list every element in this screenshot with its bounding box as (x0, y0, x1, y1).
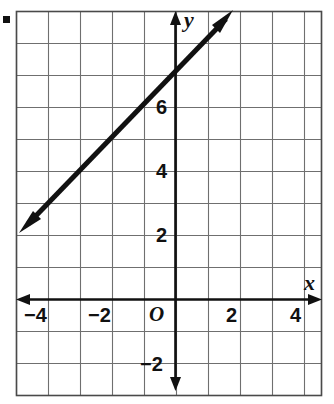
y-tick-label-pos6: 6 (156, 96, 167, 118)
bullet-marker-icon (3, 16, 10, 23)
x-tick-label-neg2: −2 (88, 304, 111, 326)
y-tick-label-neg2: −2 (140, 353, 163, 375)
coordinate-plane-figure: y x O −4 −2 2 4 6 4 2 −2 (0, 0, 334, 404)
x-tick-label-neg4: −4 (24, 304, 48, 326)
graph-canvas: y x O −4 −2 2 4 6 4 2 −2 (0, 0, 334, 404)
x-tick-label-pos4: 4 (290, 304, 302, 326)
origin-label: O (149, 302, 164, 326)
x-tick-label-pos2: 2 (226, 304, 237, 326)
y-tick-label-pos2: 2 (156, 224, 167, 246)
y-tick-label-pos4: 4 (156, 160, 168, 182)
x-axis-label: x (303, 270, 315, 295)
